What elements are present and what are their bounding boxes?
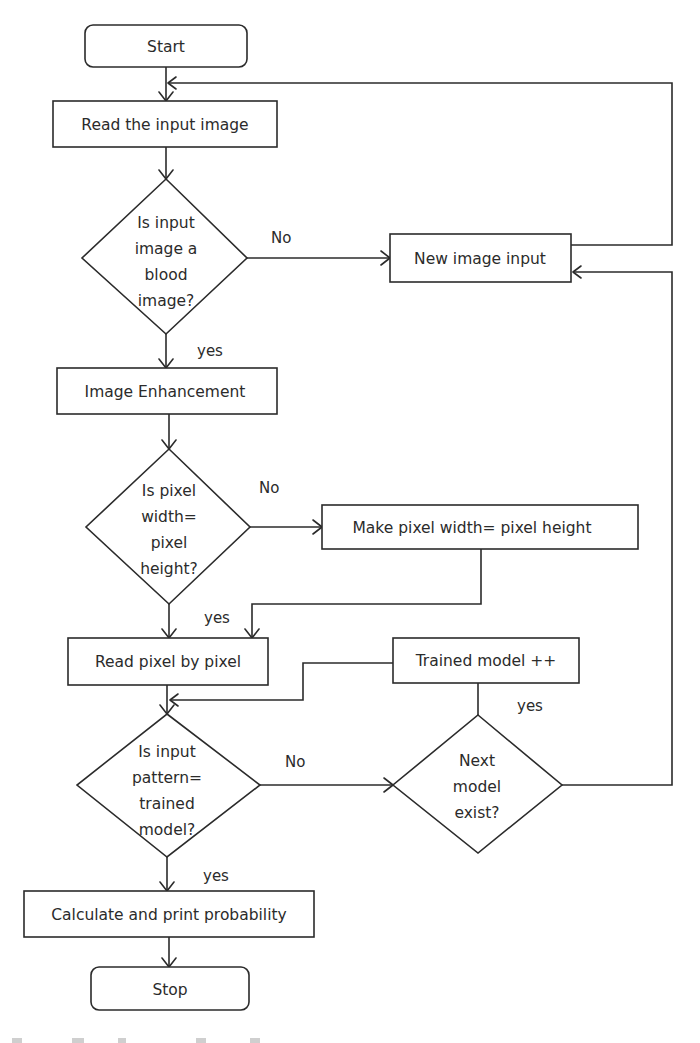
node-calculate-probability: Calculate and print probability bbox=[24, 891, 314, 937]
node-is-square-line-4: height? bbox=[140, 560, 198, 578]
node-calculate-label: Calculate and print probability bbox=[51, 906, 286, 924]
node-is-match-line-2: pattern= bbox=[132, 769, 202, 787]
node-start: Start bbox=[85, 25, 247, 67]
edge-read-to-blood-check bbox=[159, 147, 173, 179]
edge-blood-no bbox=[247, 251, 390, 265]
node-read-pixel-by-pixel: Read pixel by pixel bbox=[68, 638, 268, 685]
node-next-model-line-2: model bbox=[453, 778, 501, 796]
node-trained-inc-label: Trained model ++ bbox=[415, 652, 557, 670]
node-is-match-line-4: model? bbox=[139, 821, 196, 839]
edge-label-match-yes: yes bbox=[203, 867, 229, 885]
node-enhance-label: Image Enhancement bbox=[85, 383, 246, 401]
node-is-square-line-3: pixel bbox=[151, 534, 188, 552]
node-read-pixels-label: Read pixel by pixel bbox=[95, 653, 241, 671]
node-new-image-label: New image input bbox=[414, 250, 546, 268]
clipped-caption-fragment bbox=[12, 1038, 260, 1043]
node-read-input: Read the input image bbox=[53, 101, 277, 147]
node-is-square-line-2: width= bbox=[141, 508, 197, 526]
edge-start-to-read bbox=[159, 67, 173, 101]
node-trained-model-increment: Trained model ++ bbox=[393, 638, 579, 683]
edge-blood-yes bbox=[159, 334, 173, 368]
edge-label-square-no: No bbox=[259, 479, 279, 497]
node-next-model-line-1: Next bbox=[459, 752, 495, 770]
node-stop-label: Stop bbox=[152, 981, 187, 999]
node-start-label: Start bbox=[147, 38, 185, 56]
flowchart-canvas: Start Read the input image Is input imag… bbox=[0, 0, 700, 1043]
node-stop: Stop bbox=[91, 967, 249, 1010]
node-next-model-line-3: exist? bbox=[454, 804, 499, 822]
node-image-enhancement: Image Enhancement bbox=[57, 368, 277, 414]
node-make-pixel-square: Make pixel width= pixel height bbox=[322, 505, 638, 549]
edge-match-yes bbox=[160, 857, 174, 891]
node-is-pattern-match: Is input pattern= trained model? bbox=[77, 714, 260, 857]
edge-label-blood-yes: yes bbox=[197, 342, 223, 360]
edge-enhance-to-square-check bbox=[162, 414, 176, 449]
node-is-blood-line-3: blood bbox=[145, 266, 188, 284]
node-is-square-line-1: Is pixel bbox=[142, 482, 196, 500]
edge-make-square-to-read-pixels bbox=[245, 549, 481, 638]
node-make-square-label: Make pixel width= pixel height bbox=[352, 519, 591, 537]
edge-match-no bbox=[260, 778, 393, 792]
node-is-match-line-3: trained bbox=[139, 795, 194, 813]
node-is-blood-line-1: Is input bbox=[137, 214, 194, 232]
edge-label-square-yes: yes bbox=[204, 609, 230, 627]
edge-label-blood-no: No bbox=[271, 229, 291, 247]
flowchart-svg: Start Read the input image Is input imag… bbox=[0, 0, 700, 1043]
node-is-blood-line-2: image a bbox=[135, 240, 198, 258]
edge-calculate-to-stop bbox=[162, 937, 176, 967]
edge-square-no bbox=[250, 520, 322, 534]
node-read-input-label: Read the input image bbox=[81, 116, 248, 134]
node-new-image-input: New image input bbox=[390, 234, 571, 282]
node-is-blood-image: Is input image a blood image? bbox=[82, 179, 247, 334]
node-is-pixel-square: Is pixel width= pixel height? bbox=[86, 449, 250, 604]
node-next-model-exist: Next model exist? bbox=[393, 715, 562, 853]
node-is-blood-line-4: image? bbox=[138, 292, 195, 310]
edge-label-next-yes: yes bbox=[517, 697, 543, 715]
node-is-match-line-1: Is input bbox=[138, 743, 195, 761]
edge-label-match-no: No bbox=[285, 753, 305, 771]
edge-square-yes bbox=[162, 604, 176, 638]
